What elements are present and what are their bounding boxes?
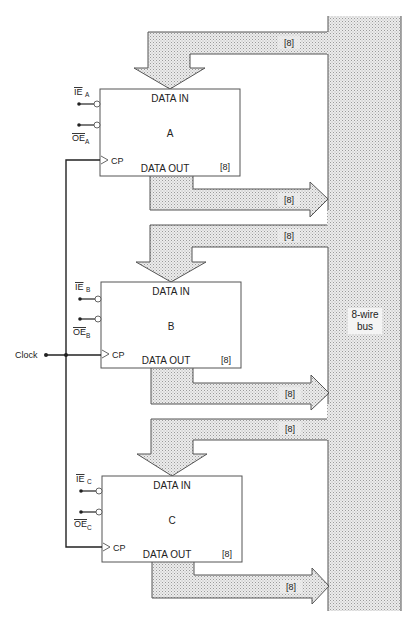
register-c-oe-sub: C [87, 524, 92, 531]
register-b-data-in-label: DATA IN [152, 286, 189, 297]
register-c-in-width: [8] [285, 424, 295, 434]
register-b-out-width: [8] [285, 389, 295, 399]
clock-input-dot[interactable] [44, 353, 48, 357]
register-a-ie-label: IE [74, 87, 83, 97]
register-b-oe-sub: B [86, 332, 90, 339]
register-c-out-width: [8] [286, 582, 296, 592]
register-c-cp-label: CP [113, 543, 126, 553]
register-b-name: B [168, 321, 175, 332]
register-a: [8] [8] DATA IN A DATA OUT [8] CP IE A O… [72, 32, 328, 217]
register-b-data-out-arrow [151, 368, 329, 410]
register-b-data-out-label: DATA OUT [142, 355, 191, 366]
register-c-data-out-label: DATA OUT [143, 549, 192, 560]
register-a-oe-input[interactable] [77, 122, 100, 128]
register-b-cp-label: CP [112, 350, 125, 360]
register-a-oe-sub: A [85, 138, 90, 145]
register-c-ie-label: IE [76, 474, 85, 484]
register-b-oe-input[interactable] [78, 316, 101, 322]
register-c-name: C [168, 515, 175, 526]
register-a-ie-sub: A [85, 91, 90, 98]
clock-junction [64, 353, 68, 357]
register-a-data-out-arrow [150, 176, 328, 217]
register-b-ie-label: IE [75, 282, 84, 292]
register-c-oe-input[interactable] [79, 509, 102, 515]
register-a-out-width: [8] [284, 195, 294, 205]
register-b: [8] [8] DATA IN B DATA OUT [8] CP IE B O… [73, 210, 329, 410]
clock-line: Clock [15, 160, 102, 547]
register-c-ie-sub: C [87, 478, 92, 485]
register-a-data-in-label: DATA IN [151, 93, 188, 104]
register-c-width: [8] [222, 549, 232, 559]
register-b-in-width: [8] [284, 231, 294, 241]
register-c-data-out-arrow [152, 562, 329, 604]
register-a-data-out-label: DATA OUT [141, 163, 190, 174]
register-a-oe-label: OE [72, 133, 85, 143]
register-b-width: [8] [221, 355, 231, 365]
register-c: [8] [8] DATA IN C DATA OUT [8] CP IE C O… [74, 404, 329, 604]
clock-label: Clock [15, 350, 38, 360]
register-a-name: A [167, 128, 174, 139]
bus-label-line1: 8-wire [351, 309, 379, 320]
register-c-ie-input[interactable] [79, 488, 102, 494]
register-a-width: [8] [220, 162, 230, 172]
register-b-ie-sub: B [86, 286, 90, 293]
eight-wire-bus: 8-wire bus [328, 16, 401, 611]
register-b-ie-input[interactable] [78, 296, 101, 302]
bus-diagram: 8-wire bus [8] [8] DATA IN A DATA OUT [8… [0, 0, 416, 626]
register-c-oe-label: OE [74, 519, 87, 529]
register-a-in-width: [8] [284, 38, 294, 48]
register-b-oe-label: OE [73, 327, 86, 337]
register-a-cp-label: CP [111, 156, 124, 166]
register-a-ie-input[interactable] [77, 101, 100, 107]
bus-label-line2: bus [357, 321, 373, 332]
register-c-data-in-label: DATA IN [153, 480, 190, 491]
